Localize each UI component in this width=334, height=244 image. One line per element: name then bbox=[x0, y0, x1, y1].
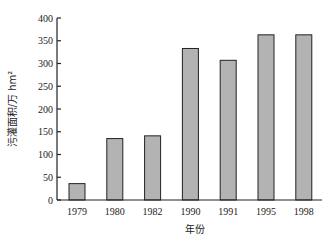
x-tick-label: 1991 bbox=[218, 206, 238, 217]
bars bbox=[69, 35, 312, 200]
x-tick-label: 1982 bbox=[143, 206, 163, 217]
bar-1982 bbox=[145, 136, 161, 200]
bar-1990 bbox=[182, 48, 198, 200]
bar-1980 bbox=[107, 139, 123, 200]
x-tick-label: 1998 bbox=[294, 206, 314, 217]
y-axis-title: 污灌面积/万 hm² bbox=[7, 71, 18, 148]
x-axis-title: 年份 bbox=[185, 223, 205, 235]
y-tick-label: 300 bbox=[38, 58, 53, 69]
y-tick-label: 0 bbox=[48, 195, 53, 206]
y-tick-label: 350 bbox=[38, 35, 53, 46]
x-tick-label: 1980 bbox=[105, 206, 125, 217]
y-tick-label: 200 bbox=[38, 104, 53, 115]
y-tick-label: 50 bbox=[43, 172, 53, 183]
bar-1991 bbox=[220, 60, 236, 200]
y-tick-label: 150 bbox=[38, 126, 53, 137]
y-tick-label: 400 bbox=[38, 13, 53, 24]
x-axis-ticks: 1979198019821990199119951998 bbox=[67, 206, 314, 217]
y-tick-label: 250 bbox=[38, 81, 53, 92]
y-tick-label: 100 bbox=[38, 149, 53, 160]
x-tick-label: 1990 bbox=[180, 206, 200, 217]
bar-1995 bbox=[258, 35, 274, 200]
x-tick-label: 1979 bbox=[67, 206, 87, 217]
bar-1979 bbox=[69, 184, 85, 200]
bar-chart: 050100150200250300350400 197919801982199… bbox=[0, 0, 334, 244]
bar-1998 bbox=[296, 35, 312, 200]
x-tick-label: 1995 bbox=[256, 206, 276, 217]
